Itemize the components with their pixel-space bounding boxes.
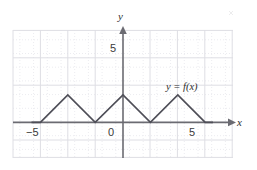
x-axis-label: x (236, 116, 242, 128)
xtick-label-5: 5 (189, 126, 195, 138)
corner-artifact-mark (229, 11, 233, 15)
y-axis-label: y (117, 10, 123, 22)
figure-container: −5 0 5 5 x y y = f(x) (0, 0, 257, 170)
curve-label: y = f(x) (165, 81, 198, 93)
y-axis (119, 26, 127, 158)
function-graph: −5 0 5 5 x y y = f(x) (0, 0, 257, 170)
ytick-label-5: 5 (110, 42, 116, 54)
xtick-label-neg5: −5 (26, 126, 39, 138)
xtick-label-0: 0 (108, 126, 114, 138)
